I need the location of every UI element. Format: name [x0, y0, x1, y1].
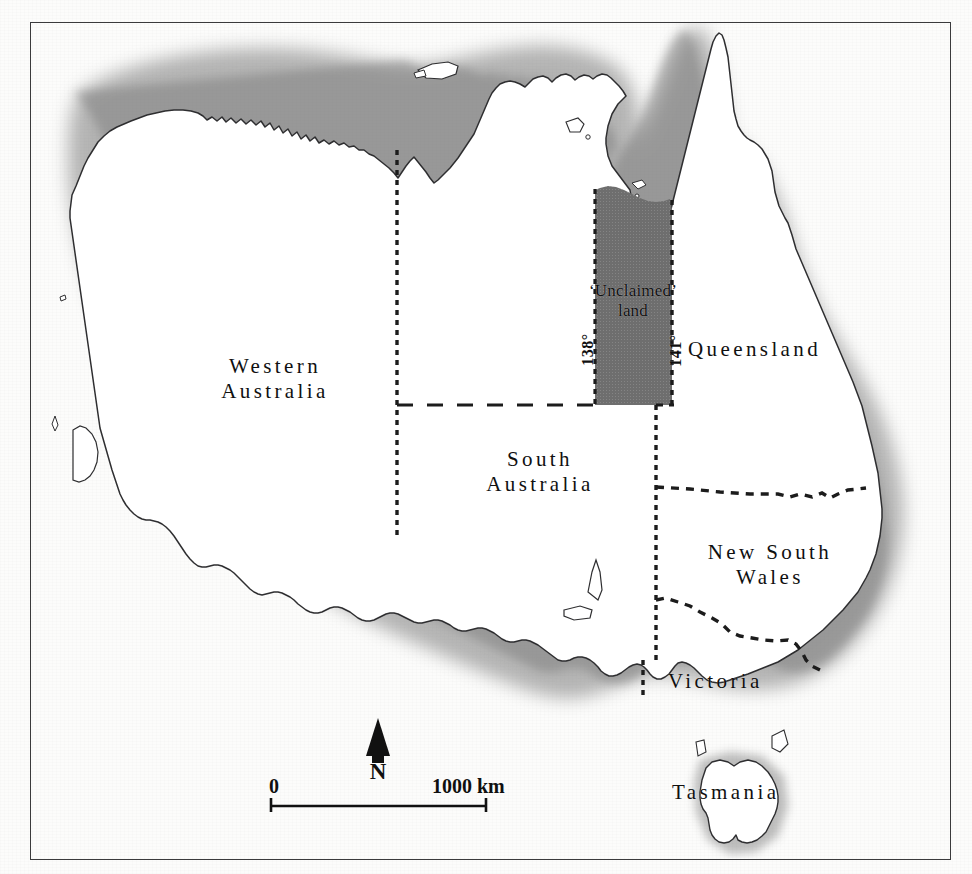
label-south-australia: South Australia [435, 447, 645, 497]
label-new-south-wales: New South Wales [675, 540, 865, 590]
label-unclaimed-land: ‘Unclaimed’ land [578, 281, 688, 320]
label-tasmania: Tasmania [672, 780, 842, 805]
label-meridian-138: 138° [579, 326, 598, 372]
scale-bar-start-label: 0 [262, 775, 286, 799]
scale-bar-end-label: 1000 km [432, 775, 556, 799]
map-page: Western Australia South Australia Queens… [0, 0, 972, 874]
compass-label-north: N [362, 758, 394, 785]
label-meridian-141: 141° [667, 327, 686, 373]
label-queensland: Queensland [688, 337, 858, 362]
figure-caption [62, 866, 882, 874]
label-victoria: Victoria [668, 669, 828, 694]
map-frame-border [30, 22, 951, 860]
label-western-australia: Western Australia [160, 354, 390, 404]
